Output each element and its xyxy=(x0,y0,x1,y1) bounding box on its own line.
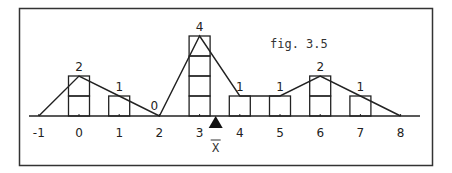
histogram-bar-unit xyxy=(229,96,250,116)
histogram-bar-unit xyxy=(310,96,331,116)
frequency-polygon-line xyxy=(39,36,401,116)
x-tick-label: 5 xyxy=(276,126,284,140)
x-tick-label: -1 xyxy=(33,126,45,140)
figure-caption: fig. 3.5 xyxy=(270,37,328,51)
x-tick-label: 8 xyxy=(397,126,405,140)
frequency-label: 4 xyxy=(196,20,204,34)
x-tick-label: 3 xyxy=(196,126,204,140)
frequency-polygon xyxy=(39,36,401,116)
frequency-label: 2 xyxy=(75,60,83,74)
diagram-canvas: -1012345678 21041121 X fig. 3.5 xyxy=(0,0,452,173)
frequency-label: 1 xyxy=(276,80,284,94)
x-tick-label: 7 xyxy=(357,126,365,140)
x-tick-label: 2 xyxy=(156,126,164,140)
mean-fulcrum-icon xyxy=(209,116,223,128)
frequency-label: 0 xyxy=(151,99,159,113)
frequency-label: 1 xyxy=(115,80,123,94)
histogram-bar-unit xyxy=(189,76,210,96)
x-tick-label: 1 xyxy=(115,126,123,140)
histogram-bar-unit xyxy=(69,96,90,116)
frequency-label: 1 xyxy=(357,80,365,94)
histogram-bar-unit xyxy=(270,96,291,116)
figure-frame xyxy=(20,9,433,166)
mean-label: X xyxy=(212,141,220,155)
histogram-bar-unit xyxy=(189,96,210,116)
x-tick-label: 0 xyxy=(75,126,83,140)
x-tick-label: 6 xyxy=(316,126,324,140)
frequency-label: 1 xyxy=(236,80,244,94)
frequency-label: 2 xyxy=(316,60,324,74)
histogram-bar-unit xyxy=(189,56,210,76)
x-tick-label: 4 xyxy=(236,126,244,140)
